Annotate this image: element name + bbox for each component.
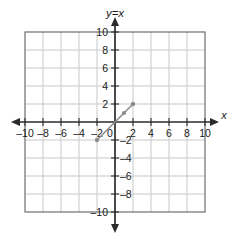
y-tick-label: –6: [120, 170, 132, 182]
x-tick-label: 6: [166, 127, 172, 139]
graph-figure: –10 –8 –6 –4 –2 0 2 4 6 8 10 10 8 6 4 2 …: [0, 0, 235, 242]
x-tick-label: –8: [37, 127, 49, 139]
x-tick-label: –2: [91, 127, 103, 139]
y-tick-label: –2: [120, 134, 132, 146]
y-tick-label: 10: [96, 26, 108, 38]
y-tick-label: 2: [102, 98, 108, 110]
y-tick-label: 6: [102, 62, 108, 74]
data-point-marker: [95, 138, 99, 142]
chart-background: [0, 0, 235, 242]
x-tick-label: 10: [199, 127, 211, 139]
x-tick-label: –10: [16, 127, 34, 139]
y-tick-label: –4: [120, 152, 132, 164]
y-tick-label: 8: [102, 44, 108, 56]
data-point-marker: [131, 102, 135, 106]
y-tick-label: –10: [90, 206, 108, 218]
coordinate-plane-svg: –10 –8 –6 –4 –2 0 2 4 6 8 10 10 8 6 4 2 …: [0, 0, 235, 242]
x-tick-label: –4: [73, 127, 85, 139]
x-tick-label: –6: [55, 127, 67, 139]
data-point-marker: [122, 111, 126, 115]
x-tick-label: 8: [184, 127, 190, 139]
y-tick-label: –8: [120, 188, 132, 200]
x-tick-label: 4: [148, 127, 154, 139]
x-axis-label: x: [220, 109, 227, 121]
y-tick-label: 4: [102, 80, 108, 92]
chart-title: y=x: [105, 7, 125, 19]
